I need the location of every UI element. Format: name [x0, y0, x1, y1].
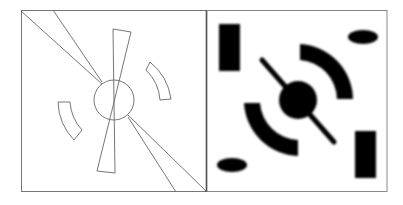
center-disc: [279, 81, 317, 119]
right-panel: [207, 11, 387, 192]
block-bottom-right: [355, 131, 376, 178]
block-top-left: [219, 24, 240, 71]
ellipse-bottom-left: [217, 158, 247, 172]
diagram: [0, 0, 403, 205]
left-panel: [21, 10, 207, 192]
ellipse-top-right: [348, 30, 378, 44]
